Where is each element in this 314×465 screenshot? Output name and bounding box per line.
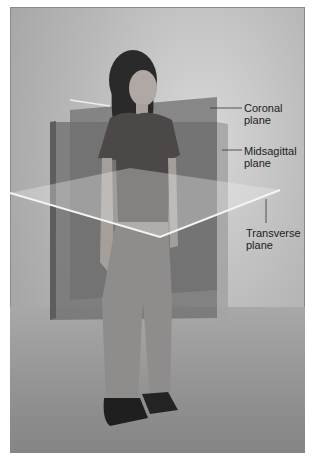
midsagittal-plane-edge bbox=[217, 122, 228, 322]
transverse-plane-label: Transverse plane bbox=[246, 227, 301, 251]
coronal-label-line2: plane bbox=[244, 114, 283, 126]
coronal-plane-label: Coronal plane bbox=[244, 102, 283, 126]
transverse-label-line2: plane bbox=[246, 239, 301, 251]
coronal-label-line1: Coronal bbox=[244, 102, 283, 114]
midsagittal-plane-label: Midsagittal plane bbox=[244, 145, 297, 169]
midsagittal-label-line1: Midsagittal bbox=[244, 145, 297, 157]
midsagittal-label-line2: plane bbox=[244, 157, 297, 169]
transverse-label-line1: Transverse bbox=[246, 227, 301, 239]
